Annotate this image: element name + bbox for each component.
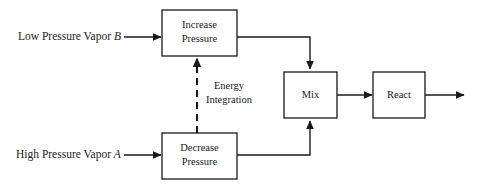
box-label-react: React <box>387 89 411 100</box>
box-label-mix: Mix <box>302 89 320 100</box>
energy-integration-label-line2: Integration <box>206 94 253 105</box>
flow-canvas: Low Pressure Vapor B Increase Pressure H… <box>0 0 479 189</box>
stream-label-high-text: High Pressure Vapor <box>16 148 114 161</box>
box-label-decrease-pressure-line2: Pressure <box>182 156 218 167</box>
stream-label-low-variable: B <box>114 30 121 42</box>
box-label-increase-pressure-line2: Pressure <box>182 33 218 44</box>
box-label-decrease-pressure-line1: Decrease <box>180 142 219 153</box>
energy-integration-label-line1: Energy <box>214 80 245 91</box>
arrow-increase-pressure-to-mix <box>237 37 310 69</box>
stream-label-low-text: Low Pressure Vapor <box>18 30 114 43</box>
process-flow-diagram: Low Pressure Vapor B Increase Pressure H… <box>0 0 479 189</box>
stream-label-high-variable: A <box>113 148 122 160</box>
box-label-increase-pressure-line1: Increase <box>182 19 217 30</box>
arrow-decrease-pressure-to-mix <box>237 121 310 155</box>
stream-label-high-pressure-vapor: High Pressure Vapor A <box>16 148 122 161</box>
stream-label-low-pressure-vapor: Low Pressure Vapor B <box>18 30 121 43</box>
